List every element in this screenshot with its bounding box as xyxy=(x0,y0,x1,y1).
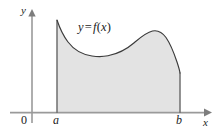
origin-label: 0 xyxy=(21,114,27,126)
y-axis-label: y xyxy=(21,5,26,16)
figure-container: y x 0 a b y=f(x) xyxy=(0,0,220,138)
lower-limit-label-a: a xyxy=(53,114,59,126)
shaded-region xyxy=(57,20,180,113)
function-label-equals: = xyxy=(84,20,93,34)
function-label-y: y xyxy=(78,20,84,34)
upper-limit-label-b: b xyxy=(176,114,182,126)
y-axis-arrowhead xyxy=(28,9,35,17)
x-axis-label: x xyxy=(203,117,208,128)
function-label: y=f(x) xyxy=(78,21,111,34)
function-label-close-paren: ) xyxy=(107,20,111,34)
